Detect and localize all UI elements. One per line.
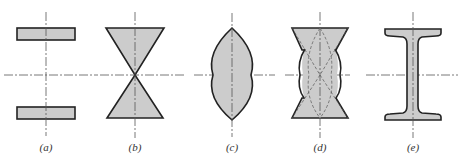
panel-c-lens <box>212 13 253 137</box>
label-e: (e) <box>407 141 419 153</box>
panel-b-hourglass <box>106 12 164 138</box>
label-b: (b) <box>129 141 142 153</box>
label-d: (d) <box>314 141 327 153</box>
panel-d-hourglass-lens <box>292 12 348 138</box>
figure-svg: .shape { fill: #cccccc; stroke: #222; st… <box>0 0 461 161</box>
cross-section-figure: .shape { fill: #cccccc; stroke: #222; st… <box>0 0 461 161</box>
label-a: (a) <box>40 141 53 153</box>
label-c: (c) <box>226 141 238 153</box>
panel-a-two-rectangles <box>17 12 75 136</box>
